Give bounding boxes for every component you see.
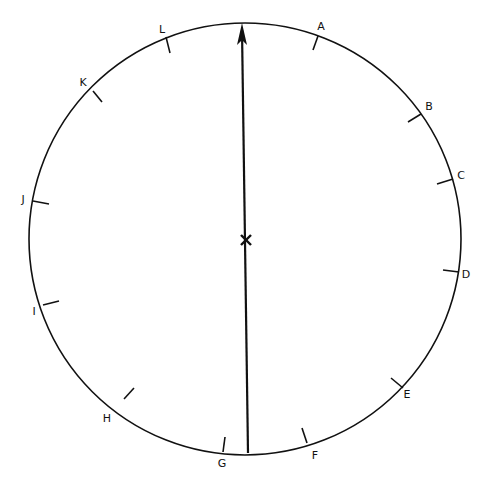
tick-j bbox=[33, 201, 49, 204]
tick-label-i: I bbox=[32, 305, 35, 318]
tick-label-k: K bbox=[79, 76, 87, 89]
tick-l bbox=[166, 37, 170, 53]
tick-label-a: A bbox=[317, 20, 325, 33]
tick-label-h: H bbox=[103, 412, 111, 425]
tick-label-e: E bbox=[404, 388, 411, 401]
tick-label-c: C bbox=[457, 169, 465, 182]
tick-i bbox=[43, 301, 59, 305]
tick-a bbox=[313, 36, 318, 50]
tick-label-l: L bbox=[159, 23, 166, 36]
tick-label-j: J bbox=[20, 193, 24, 206]
tick-b bbox=[408, 114, 421, 122]
tick-label-d: D bbox=[462, 268, 470, 281]
tick-label-g: G bbox=[218, 457, 227, 470]
tick-d bbox=[443, 270, 459, 272]
tick-g bbox=[223, 437, 225, 452]
tick-k bbox=[93, 91, 102, 102]
tick-h bbox=[124, 388, 134, 399]
dial-diagram: ABCDEFGHIJKL bbox=[0, 0, 489, 486]
tick-label-b: B bbox=[425, 100, 433, 113]
tick-c bbox=[437, 179, 453, 184]
tick-f bbox=[302, 428, 307, 443]
tick-label-f: F bbox=[312, 449, 318, 462]
tick-e bbox=[391, 378, 403, 388]
